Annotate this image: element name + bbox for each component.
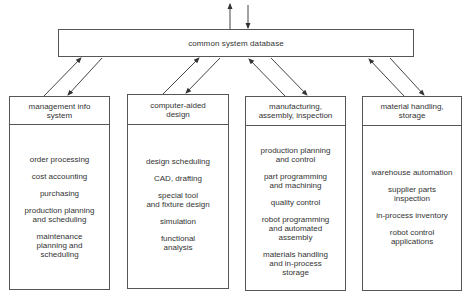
module-item: production planning and scheduling — [10, 206, 109, 224]
module-item: order processing — [10, 155, 109, 164]
module-manufacturing-assembly-inspection: manufacturing, assembly, inspection prod… — [245, 96, 346, 291]
module-item: simulation — [128, 217, 228, 226]
module-title: management info system — [10, 97, 109, 125]
module-item: quality control — [246, 198, 345, 207]
module-title-text: material handling, storage — [380, 102, 443, 120]
module-title: manufacturing, assembly, inspection — [246, 97, 345, 126]
database-label: common system database — [188, 39, 284, 48]
module-item: robot control applications — [363, 228, 461, 246]
module-item: materials handling and in-process storag… — [246, 250, 345, 277]
module-item: functional analysis — [128, 234, 228, 252]
module-management-info-system: management info system order processing … — [9, 96, 110, 290]
module-item: cost accounting — [10, 172, 109, 181]
db-to-mis-arrow — [68, 58, 102, 95]
module-item: maintenance planning and scheduling — [10, 232, 109, 259]
cad-to-db-arrow — [163, 58, 199, 94]
module-title: material handling, storage — [363, 97, 461, 126]
common-system-database-box: common system database — [58, 29, 414, 57]
db-to-mh-arrow — [390, 58, 424, 95]
db-to-mfg-arrow — [271, 58, 307, 95]
mfg-to-db-arrow — [249, 59, 285, 96]
module-item: production planning and control — [246, 146, 345, 164]
module-title-text: computer-aided design — [150, 101, 206, 119]
module-item: in-process inventory — [363, 211, 461, 220]
module-material-handling-storage: material handling, storage warehouse aut… — [362, 96, 462, 291]
module-item: CAD, drafting — [128, 174, 228, 183]
module-item: special tool and fixture design — [128, 191, 228, 209]
module-title-text: management info system — [29, 102, 91, 120]
mh-to-db-arrow — [369, 59, 404, 96]
module-item: design scheduling — [128, 157, 228, 166]
module-title-text: manufacturing, assembly, inspection — [259, 102, 333, 120]
mis-to-db-arrow — [44, 58, 81, 96]
module-item: robot programming and automated assembly — [246, 215, 345, 242]
db-to-cad-arrow — [186, 58, 220, 93]
module-item: purchasing — [10, 189, 109, 198]
module-title: computer-aided design — [128, 95, 228, 125]
module-item: supplier parts inspection — [363, 185, 461, 203]
module-item: part programming and machining — [246, 172, 345, 190]
module-computer-aided-design: computer-aided design design scheduling … — [127, 94, 229, 289]
module-item: warehouse automation — [363, 168, 461, 177]
